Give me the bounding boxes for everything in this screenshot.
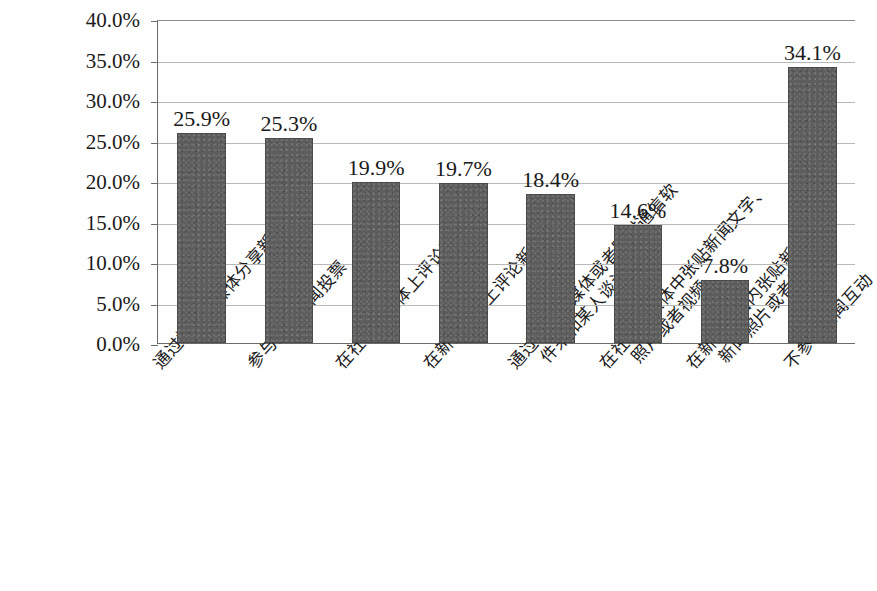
y-tick-label: 25.0% [86,131,140,152]
bar-value-label: 25.3% [260,113,317,135]
bar [177,133,225,343]
bar [701,280,749,343]
bar-value-label: 18.4% [522,169,579,191]
bar-value-label: 19.9% [348,157,405,179]
y-tick-mark [151,183,158,184]
bar [439,183,487,343]
y-tick-mark [151,143,158,144]
gridline [158,102,855,103]
y-tick-mark [151,224,158,225]
y-tick-mark [151,62,158,63]
bar-value-label: 7.8% [702,255,748,277]
bar-value-label: 14.6% [609,200,666,222]
y-tick-label: 40.0% [86,10,140,31]
y-tick-mark [151,102,158,103]
gridline [158,143,855,144]
gridline [158,264,855,265]
y-tick-label: 15.0% [86,212,140,233]
bar [352,182,400,343]
bar [788,67,836,343]
bar-value-label: 19.7% [435,158,492,180]
gridline [158,62,855,63]
y-tick-label: 35.0% [86,50,140,71]
bar [265,138,313,343]
gridline [158,305,855,306]
gridline [158,183,855,184]
y-tick-label: 30.0% [86,91,140,112]
y-tick-mark [151,21,158,22]
bar-value-label: 34.1% [784,42,841,64]
y-tick-mark [151,305,158,306]
y-tick-mark [151,264,158,265]
y-tick-label: 20.0% [86,172,140,193]
bar [614,225,662,343]
y-tick-label: 10.0% [86,253,140,274]
bar-value-label: 25.9% [173,108,230,130]
gridline [158,224,855,225]
bar [526,194,574,343]
y-tick-label: 5.0% [96,293,140,314]
x-axis-category-labels: 通过社会化媒体分享新闻链接参与网络新闻投票在社会化媒体上评论新闻在新闻网站上评论… [0,344,863,591]
